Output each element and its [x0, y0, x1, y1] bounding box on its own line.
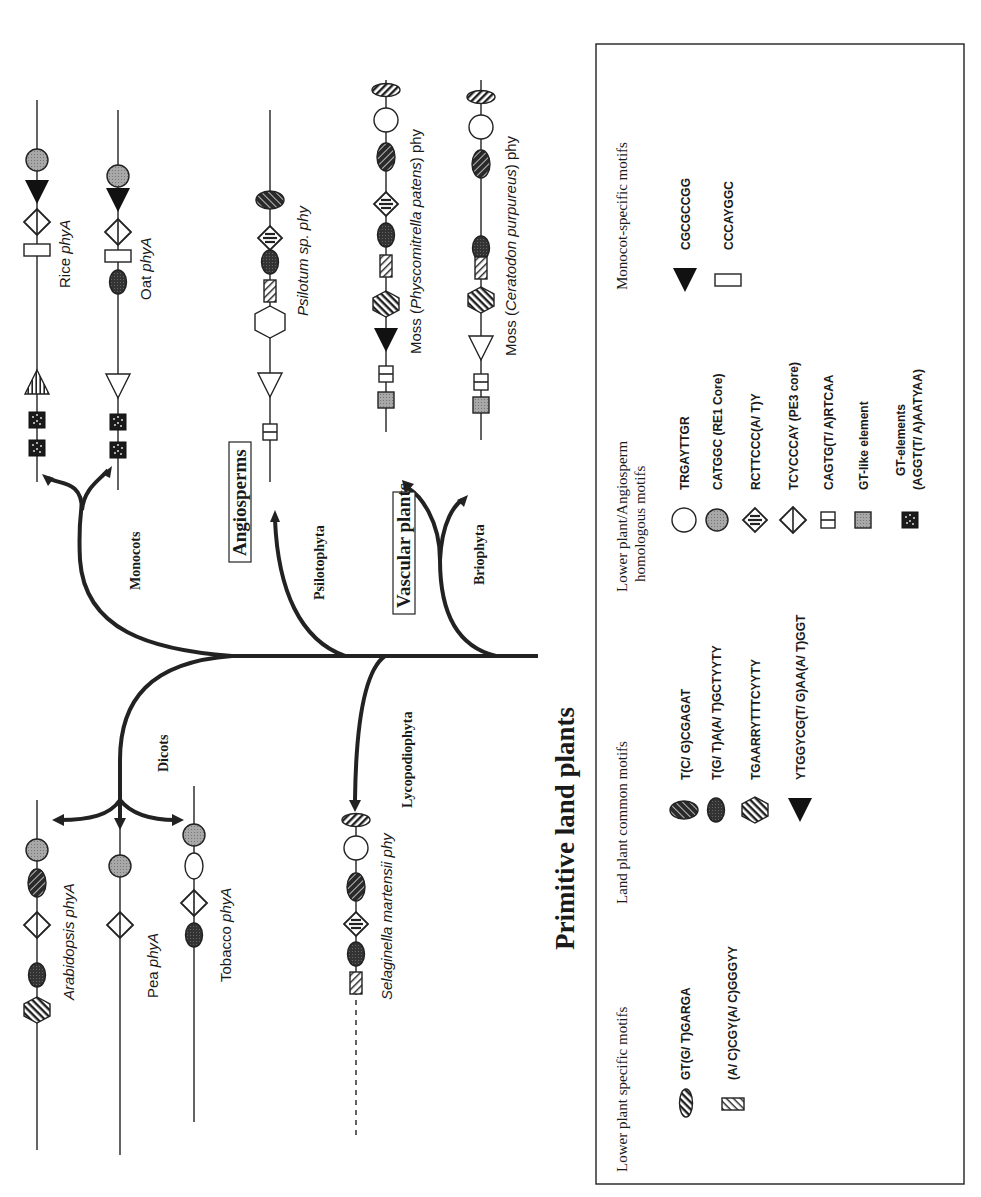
- label-lycopodiophyta: Lycopodiophyta: [400, 712, 415, 808]
- branch-lycopodiophyta: [355, 656, 385, 800]
- svg-text:TRGAYTTGR: TRGAYTTGR: [678, 416, 692, 490]
- gene-rice-phyA: Rice phyA: [24, 100, 73, 482]
- gene-label-tobacco: Tobacco phyA: [217, 888, 234, 982]
- gene-arabidopsis-phyA: Arabidopsis phyA: [24, 800, 77, 1150]
- svg-text:CCCAYGGC: CCCAYGGC: [722, 181, 736, 250]
- svg-text:(A/ C)CGY(A/ C)GGGYY: (A/ C)CGY(A/ C)GGGYY: [726, 946, 740, 1080]
- branch-briophyta-ceratodon: [440, 500, 462, 560]
- legend-header-lower-plant-specific: Lower plant specific motifs: [614, 1006, 630, 1172]
- gene-moss-ceratodon-phy: Moss (Ceratodon purpureus) phy: [467, 80, 519, 440]
- gene-oat-phyA: Oat phyA: [105, 110, 154, 490]
- root-label: Primitive land plants: [550, 707, 580, 950]
- label-psilotophyta: Psilotophyta: [312, 525, 327, 600]
- label-dicots: Dicots: [156, 734, 171, 772]
- legend-header-homologous-line1: Lower plant/Angiosperm: [614, 440, 630, 592]
- svg-text:T(G/ T)A(A/ T)GCTYYTY: T(G/ T)A(A/ T)GCTYYTY: [710, 645, 724, 780]
- gene-label-selaginella: Selaginella martensii phy: [378, 832, 395, 1000]
- svg-text:GT-like element: GT-like element: [857, 401, 871, 490]
- phytochrome-promoter-evolution-figure: Angiosperms Vascular plants Monocots Dic…: [0, 0, 981, 1197]
- svg-text:Vascular plants: Vascular plants: [393, 483, 414, 608]
- gene-label-physcomitrella: Moss (Physcomitrella patens) phy: [407, 128, 424, 354]
- motif-legend: Lower plant specific motifs GT(G/ T)GARG…: [596, 44, 964, 1184]
- svg-text:GT(G/ T)GARGA: GT(G/ T)GARGA: [679, 987, 693, 1080]
- legend-header-homologous-line2: homologous motifs: [632, 466, 648, 582]
- svg-text:(AGGT(T/ A)AATYAA): (AGGT(T/ A)AATYAA): [911, 369, 925, 490]
- gene-label-oat: Oat phyA: [137, 237, 154, 300]
- gene-label-pea: Pea phyA: [144, 933, 161, 998]
- gene-promoter-maps: Rice phyA Oat phyA Psilotum sp. phy: [24, 80, 519, 1155]
- branch-dicots: [120, 656, 232, 800]
- gene-tobacco-phyA: Tobacco phyA: [181, 786, 234, 1122]
- branch-monocots-oat: [82, 470, 108, 510]
- gene-label-psilotum: Psilotum sp. phy: [294, 204, 311, 316]
- svg-text:T(C/ G)CGAGAT: T(C/ G)CGAGAT: [679, 688, 693, 780]
- legend-frame: [596, 44, 964, 1184]
- legend-header-land-plant-common: Land plant common motifs: [614, 741, 630, 904]
- gene-selaginella-phy: Selaginella martensii phy: [342, 814, 395, 1141]
- svg-text:GT-elements: GT-elements: [894, 404, 908, 476]
- svg-text:TGAARRYTTTCYYTY: TGAARRYTTTCYYTY: [749, 659, 763, 780]
- branch-dicots-arabidopsis: [60, 800, 120, 820]
- branch-dicots-tobacco: [120, 800, 176, 820]
- gene-label-rice: Rice phyA: [56, 220, 73, 288]
- gene-psilotum-phy: Psilotum sp. phy: [255, 110, 311, 482]
- svg-text:CAGTG(T/ A)RTCAA: CAGTG(T/ A)RTCAA: [822, 374, 836, 490]
- branch-psilotophyta: [275, 520, 345, 656]
- clade-vascular-plants: Vascular plants: [393, 483, 415, 614]
- label-monocots: Monocots: [128, 531, 143, 590]
- gene-label-arabidopsis: Arabidopsis phyA: [60, 883, 77, 1001]
- svg-text:Angiosperms: Angiosperms: [229, 449, 250, 556]
- gene-moss-physcomitrella-phy: Moss (Physcomitrella patens) phy: [372, 80, 424, 432]
- svg-text:RCTTCCC(A/ T)Y: RCTTCCC(A/ T)Y: [749, 393, 763, 490]
- legend-item-striped-oval: GT(G/ T)GARGA: [679, 987, 693, 1117]
- branch-monocots-rice: [48, 478, 82, 510]
- branch-monocots: [79, 500, 232, 656]
- gene-label-ceratodon: Moss (Ceratodon purpureus) phy: [502, 135, 519, 356]
- legend-header-monocot-specific: Monocot-specific motifs: [614, 142, 630, 290]
- label-briophyta: Briophyta: [472, 524, 487, 585]
- clade-angiosperms: Angiosperms: [229, 442, 251, 562]
- svg-text:CGCGCCGG: CGCGCCGG: [679, 178, 693, 250]
- gene-pea-phyA: Pea phyA: [107, 818, 161, 1155]
- svg-text:TCYCCCAY (PE3 core): TCYCCCAY (PE3 core): [787, 362, 801, 490]
- svg-text:YTGGYCG(T/ G)AA(A/ T)GGT: YTGGYCG(T/ G)AA(A/ T)GGT: [794, 614, 808, 780]
- svg-text:CATGGC (RE1 Core): CATGGC (RE1 Core): [711, 374, 725, 490]
